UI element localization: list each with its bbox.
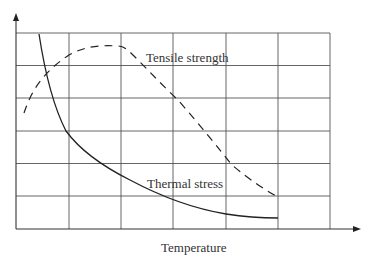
thermal-stress-label: Thermal stress bbox=[147, 176, 223, 192]
x-axis-label: Temperature bbox=[161, 240, 227, 256]
tensile-strength-label: Tensile strength bbox=[146, 50, 229, 66]
chart-canvas bbox=[0, 0, 374, 260]
x-axis-arrow-icon bbox=[353, 226, 361, 232]
y-axis-arrow-icon bbox=[13, 13, 19, 21]
